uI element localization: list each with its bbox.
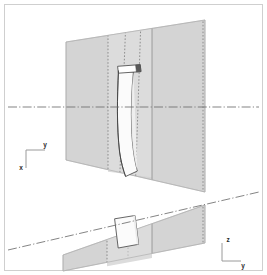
figure-root: y x z y <box>0 0 267 275</box>
front-blade-tip-end <box>136 65 141 72</box>
front-axis-label-vertical: y <box>43 141 47 149</box>
top-axis-label-horizontal: y <box>241 262 245 270</box>
front-axis-label-horizontal: x <box>19 164 23 171</box>
projection-diagram: y x z y <box>0 0 267 275</box>
